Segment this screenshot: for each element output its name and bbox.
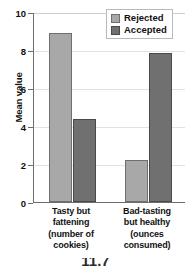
legend-label-rejected: Rejected (124, 13, 164, 23)
category-label-line: cookies) (33, 240, 109, 251)
y-axis-tick-label: 8 (0, 46, 26, 57)
y-axis-tick (28, 203, 33, 204)
y-axis-tick-label: 4 (0, 122, 26, 133)
bar-rejected-group-1 (49, 33, 72, 202)
y-axis-tick-label: 10 (0, 8, 26, 19)
bar-series-container (34, 13, 185, 202)
legend-item-accepted: Accepted (111, 25, 167, 35)
bar-accepted-group-1 (73, 119, 96, 202)
category-label-line: consumed) (109, 240, 185, 251)
category-label-line: Tasty but (33, 206, 109, 217)
bar-rejected-group-2 (125, 160, 148, 202)
category-label-line: (number of (33, 229, 109, 240)
chart-legend: Rejected Accepted (106, 9, 173, 39)
bar-chart-figure: Mean value 0246810 Rejected Accepted Tas… (0, 0, 191, 269)
bar-accepted-group-2 (149, 53, 172, 202)
figure-caption: 11.7 (0, 258, 191, 269)
x-axis-category-labels: Tasty butfattening(number ofcookies)Bad-… (33, 206, 185, 252)
legend-item-rejected: Rejected (111, 13, 167, 23)
x-axis-category-label-1: Tasty butfattening(number ofcookies) (33, 206, 109, 252)
y-axis-tick-label: 0 (0, 198, 26, 209)
y-axis-tick-label: 6 (0, 84, 26, 95)
y-axis-tick-label: 2 (0, 160, 26, 171)
legend-label-accepted: Accepted (124, 25, 167, 35)
plot-area (33, 13, 185, 203)
category-label-line: fattening (33, 217, 109, 228)
category-label-line: but healthy (109, 217, 185, 228)
category-label-line: (ounces (109, 229, 185, 240)
category-label-line: Bad-tasting (109, 206, 185, 217)
legend-swatch-rejected (111, 14, 120, 23)
figure-caption-strip: 11.7 (0, 258, 191, 269)
x-axis-category-label-2: Bad-tastingbut healthy(ouncesconsumed) (109, 206, 185, 252)
legend-swatch-accepted (111, 26, 120, 35)
